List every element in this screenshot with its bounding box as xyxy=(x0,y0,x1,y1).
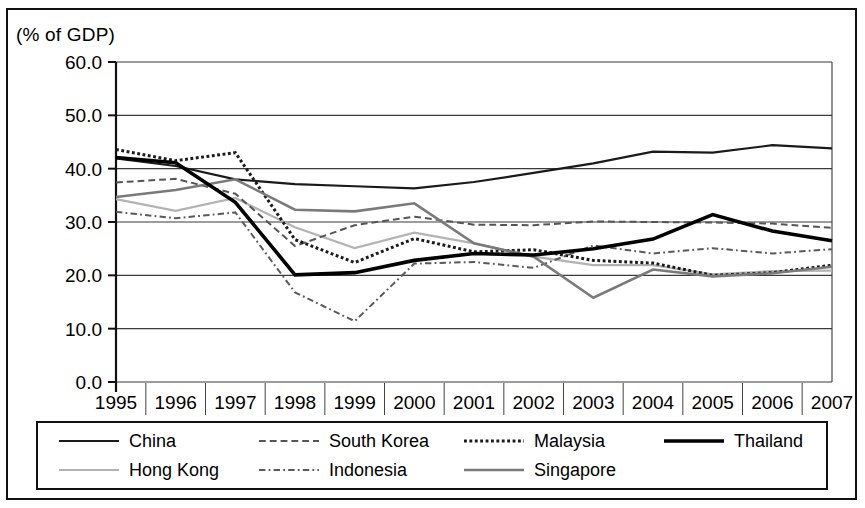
legend-swatch-south-korea xyxy=(258,434,320,448)
legend-item-singapore: Singapore xyxy=(463,461,663,479)
x-tick-label: 2003 xyxy=(572,392,614,413)
legend-swatch-singapore xyxy=(463,463,525,477)
x-tick-label: 2005 xyxy=(692,392,734,413)
x-tick-label: 1998 xyxy=(274,392,316,413)
legend-item-malaysia: Malaysia xyxy=(463,432,663,450)
legend-label-indonesia: Indonesia xyxy=(329,461,407,479)
y-tick-label: 20.0 xyxy=(65,265,102,286)
legend-label-singapore: Singapore xyxy=(534,461,616,479)
legend-swatch-thailand xyxy=(663,434,725,448)
plot-gridlines xyxy=(116,62,832,382)
legend-item-hong-kong: Hong Kong xyxy=(58,461,258,479)
y-tick-label: 10.0 xyxy=(65,319,102,340)
legend-item-china: China xyxy=(58,432,258,450)
legend-swatch-indonesia xyxy=(258,463,320,477)
series-line-indonesia xyxy=(116,212,832,321)
plot-series xyxy=(116,145,832,321)
legend-label-hong-kong: Hong Kong xyxy=(129,461,219,479)
x-tick-label: 2006 xyxy=(751,392,793,413)
x-tick-label: 1995 xyxy=(95,392,137,413)
y-tick-label: 0.0 xyxy=(76,372,102,393)
legend-label-south-korea: South Korea xyxy=(329,432,429,450)
x-tick-label: 1997 xyxy=(214,392,256,413)
legend-swatch-malaysia xyxy=(463,434,525,448)
y-tick-label: 40.0 xyxy=(65,159,102,180)
legend-swatch-hong-kong xyxy=(58,463,120,477)
chart-figure: (% of GDP) 0.010.020.030.040.050.060.019… xyxy=(0,0,865,508)
y-tick-label: 30.0 xyxy=(65,212,102,233)
legend-label-malaysia: Malaysia xyxy=(534,432,605,450)
legend-grid: ChinaSouth KoreaMalaysiaThailandHong Kon… xyxy=(38,423,826,488)
x-tick-label: 2007 xyxy=(811,392,853,413)
series-line-south-korea xyxy=(116,179,832,246)
legend-swatch-china xyxy=(58,434,120,448)
x-tick-label: 1999 xyxy=(334,392,376,413)
series-line-thailand xyxy=(116,157,832,274)
legend-item-thailand: Thailand xyxy=(663,432,812,450)
y-tick-label: 60.0 xyxy=(65,52,102,73)
y-tick-label: 50.0 xyxy=(65,105,102,126)
legend-item-south-korea: South Korea xyxy=(258,432,463,450)
series-line-singapore xyxy=(116,179,832,297)
x-tick-label: 2002 xyxy=(513,392,555,413)
legend-label-china: China xyxy=(129,432,176,450)
x-tick-label: 2001 xyxy=(453,392,495,413)
x-tick-label: 1996 xyxy=(155,392,197,413)
x-tick-label: 2000 xyxy=(393,392,435,413)
legend-label-thailand: Thailand xyxy=(734,432,803,450)
chart-legend: ChinaSouth KoreaMalaysiaThailandHong Kon… xyxy=(36,421,828,490)
x-tick-label: 2004 xyxy=(632,392,675,413)
legend-item-indonesia: Indonesia xyxy=(258,461,463,479)
